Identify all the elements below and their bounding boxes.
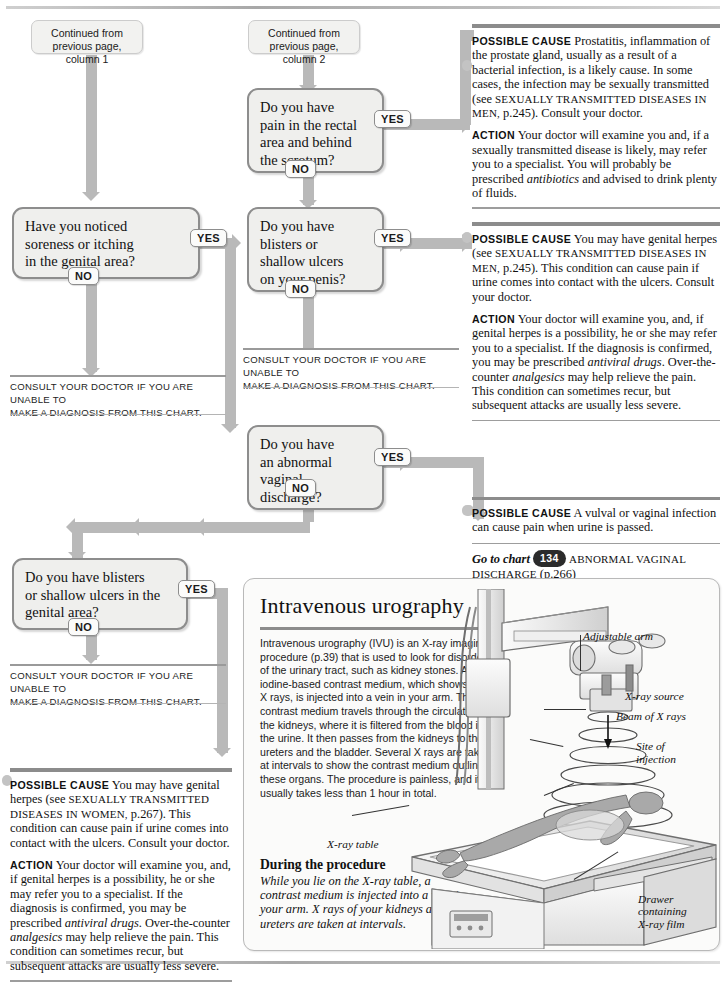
yes-label: YES	[197, 232, 220, 244]
panel-top-bar	[472, 24, 720, 28]
consult-bottomleft-rule-top	[10, 664, 226, 666]
connector-vag-no-left	[72, 522, 310, 533]
label-adjustable-arm: Adjustable arm	[583, 630, 653, 643]
panel-top-bar	[472, 497, 720, 500]
chart-number-badge: 134	[533, 550, 566, 566]
connector-arrow-gb-yes	[213, 748, 231, 757]
action-italic-2: analgesics	[10, 930, 62, 944]
action-italic-1: antiviral drugs	[588, 355, 662, 369]
question-box-vaginal-discharge[interactable]: Do you have an abnormal vaginal discharg…	[247, 425, 384, 510]
panel-action-paragraph: ACTION Your doctor will examine you, and…	[10, 858, 232, 973]
yes-tag-blisters-genital[interactable]: YES	[178, 580, 215, 598]
connector-stub-herpes	[462, 232, 472, 243]
chart-title: ABNORMAL VAGINAL	[569, 553, 686, 565]
connector-soreness-no	[86, 280, 97, 372]
consult-note-middle-line1: CONSULT YOUR DOCTOR IF YOU ARE UNABLE TO	[243, 353, 468, 379]
action-label: ACTION	[10, 859, 53, 871]
action-text-b: . Over-the-counter	[139, 916, 230, 930]
continued-box-column-1-label: Continued from previous page, column 1	[51, 27, 123, 65]
connector-arrow-col1	[82, 192, 100, 201]
no-label: NO	[292, 283, 309, 295]
question-box-blisters-genital[interactable]: Do you have blisters or shallow ulcers i…	[12, 558, 188, 630]
connector-col1-down	[86, 55, 97, 195]
panel-herpes-women: POSSIBLE CAUSE You may have genital herp…	[10, 768, 232, 982]
connector-bp-no	[303, 293, 314, 350]
yes-tag-soreness[interactable]: YES	[190, 229, 227, 247]
question-box-soreness-itching[interactable]: Have you noticed soreness or itching in …	[12, 207, 200, 279]
panel-bottom-bar	[10, 980, 232, 982]
question-box-rectal-pain[interactable]: Do you have pain in the rectal area and …	[247, 88, 384, 173]
panel-cause-paragraph: POSSIBLE CAUSE You may have genital herp…	[472, 232, 720, 304]
no-tag-blisters-penis[interactable]: NO	[285, 280, 316, 298]
panel-top-bar	[10, 768, 232, 772]
connector-arrow-right-drop	[221, 424, 239, 433]
connector-arrow-gb-no	[82, 655, 100, 664]
yes-label: YES	[381, 113, 404, 125]
action-italic-2: analgesics	[512, 370, 564, 384]
consult-note-middle-line2: MAKE A DIAGNOSIS FROM THIS CHART.	[243, 379, 468, 392]
connector-arrow-vag-no-left2	[130, 518, 139, 536]
consult-left-rule-bottom	[10, 414, 226, 415]
question-box-blisters-penis[interactable]: Do you have blisters or shallow ulcers o…	[247, 207, 384, 292]
panel-cause-paragraph: POSSIBLE CAUSE You may have genital herp…	[10, 778, 232, 850]
no-label: NO	[292, 482, 309, 494]
yes-tag-blisters-penis[interactable]: YES	[374, 229, 411, 247]
continued-box-column-2-label: Continued from previous page, column 2	[268, 27, 340, 65]
yes-label: YES	[381, 451, 404, 463]
go-to-chart-label: Go to chart	[472, 552, 530, 566]
cause-reference-2: WOMEN,	[81, 808, 128, 820]
no-label: NO	[75, 270, 92, 282]
consult-mid-rule-bottom	[243, 387, 459, 388]
top-rule	[6, 6, 720, 9]
yes-tag-rectal-pain[interactable]: YES	[374, 110, 411, 128]
panel-cause-paragraph: POSSIBLE CAUSE Prostatitis, inflammation…	[472, 34, 720, 120]
question-text: Have you noticed soreness or itching in …	[25, 218, 135, 269]
panel-top-bar	[472, 222, 720, 226]
cause-text-b: p.245). Consult your doctor.	[500, 106, 643, 120]
possible-cause-label: POSSIBLE CAUSE	[472, 507, 571, 519]
go-to-chart-line[interactable]: Go to chart 134 ABNORMAL VAGINALDISCHARG…	[472, 550, 720, 581]
panel-mid-bar	[472, 543, 720, 544]
possible-cause-label: POSSIBLE CAUSE	[472, 35, 571, 47]
action-italic-1: antiviral drugs	[65, 916, 139, 930]
possible-cause-label: POSSIBLE CAUSE	[472, 233, 571, 245]
question-text: Do you have pain in the rectal area and …	[260, 99, 357, 168]
action-label: ACTION	[472, 129, 515, 141]
connector-arrow-vag-no-left3	[195, 518, 204, 536]
panel-herpes-men: POSSIBLE CAUSE You may have genital herp…	[472, 222, 720, 421]
consult-mid-rule-top	[243, 348, 459, 350]
leader-xray-source	[544, 709, 586, 710]
consult-bottomleft-rule-bottom	[10, 703, 226, 704]
no-label: NO	[292, 163, 309, 175]
question-text: Do you have blisters or shallow ulcers i…	[25, 569, 160, 620]
document-page: Continued from previous page, column 1 C…	[0, 0, 726, 985]
yes-tag-vaginal[interactable]: YES	[374, 448, 411, 466]
label-xray-table: X-ray table	[327, 838, 379, 851]
no-tag-vaginal[interactable]: NO	[285, 479, 316, 497]
yes-label: YES	[381, 232, 404, 244]
label-drawer-xray-film: Drawer containing X-ray film	[638, 893, 687, 930]
no-tag-soreness[interactable]: NO	[68, 267, 99, 285]
label-xray-source: X-ray source	[625, 690, 684, 703]
question-text: Do you have blisters or shallow ulcers o…	[260, 218, 345, 287]
panel-bottom-bar	[472, 420, 720, 422]
no-tag-blisters-genital[interactable]: NO	[68, 618, 99, 636]
cause-text-b: p.245). This condition can cause pain if…	[472, 261, 714, 304]
panel-bottom-bar	[472, 207, 720, 209]
panel-action-paragraph: ACTION Your doctor will examine you, and…	[472, 312, 720, 413]
label-site-of-injection: Site of injection	[636, 740, 676, 766]
possible-cause-label: POSSIBLE CAUSE	[10, 779, 109, 791]
leader-adjustable-arm	[580, 635, 581, 671]
no-label: NO	[75, 621, 92, 633]
consult-note-left-line1: CONSULT YOUR DOCTOR IF YOU ARE UNABLE TO	[10, 380, 230, 406]
panel-prostatitis: POSSIBLE CAUSE Prostatitis, inflammation…	[472, 24, 720, 209]
continued-box-column-1: Continued from previous page, column 1	[31, 20, 143, 54]
consult-note-left-line2: MAKE A DIAGNOSIS FROM THIS CHART.	[10, 406, 230, 419]
connector-stub-prostatitis	[462, 60, 472, 71]
panel-vulval-infection: POSSIBLE CAUSE A vulval or vaginal infec…	[472, 497, 720, 590]
continued-box-column-2: Continued from previous page, column 2	[248, 20, 360, 54]
consult-note-bl-line1: CONSULT YOUR DOCTOR IF YOU ARE UNABLE TO	[10, 669, 230, 695]
yes-label: YES	[185, 583, 208, 595]
no-tag-rectal-pain[interactable]: NO	[285, 160, 316, 178]
consult-left-rule-top	[10, 375, 226, 377]
